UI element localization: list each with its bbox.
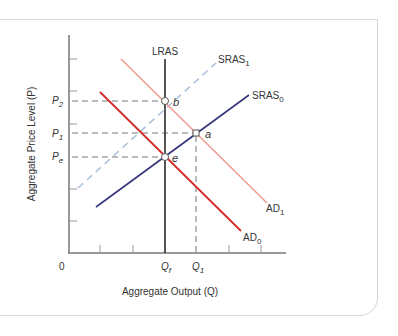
- origin-label: 0: [59, 261, 65, 272]
- pe-label: Pe: [52, 151, 64, 165]
- p2-label: P2: [52, 95, 64, 109]
- sras0-label: SRAS0: [252, 90, 284, 104]
- point-a-label: a: [205, 128, 211, 140]
- sras1-label: SRAS1: [218, 54, 250, 68]
- p1-label: P1: [52, 128, 63, 142]
- axes: [68, 35, 286, 253]
- point-a: [193, 130, 199, 136]
- y-axis-ticks: [69, 59, 77, 221]
- ad-as-diagram: b a e LRAS SRAS1 SRAS0 AD1 AD0 P2 P1 Pe …: [0, 0, 398, 336]
- y-axis-title: Aggregate Price Level (P): [26, 87, 37, 202]
- x-axis-title: Aggregate Output (Q): [122, 286, 218, 297]
- point-e: [162, 154, 169, 161]
- ad1-label: AD1: [266, 203, 285, 217]
- qf-label: Qf: [161, 261, 172, 275]
- ad0-curve: [100, 92, 241, 231]
- q1-label: Q1: [192, 261, 204, 275]
- x-axis-ticks: [100, 245, 261, 253]
- ad0-label: AD0: [243, 232, 262, 246]
- point-e-label: e: [172, 152, 178, 164]
- lras-label: LRAS: [152, 46, 178, 57]
- point-b-label: b: [173, 96, 179, 108]
- point-b: [162, 98, 169, 105]
